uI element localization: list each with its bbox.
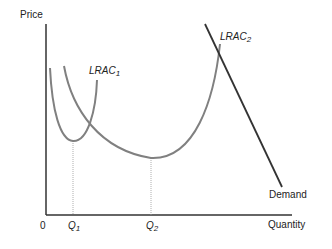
q1-subscript: 1 (76, 224, 80, 233)
lrac1-label: LRAC1 (89, 66, 120, 76)
lrac1-curve (50, 68, 97, 141)
q2-text: Q (146, 220, 154, 231)
q1-text: Q (68, 220, 76, 231)
q1-tick-label: Q1 (68, 221, 80, 231)
q2-tick-label: Q2 (146, 221, 158, 231)
lrac2-curve (64, 44, 220, 158)
lrac2-label-subscript: 2 (247, 35, 251, 44)
q2-subscript: 2 (154, 224, 158, 233)
x-axis-label: Quantity (268, 220, 305, 230)
lrac2-label: LRAC2 (220, 32, 251, 42)
demand-curve (205, 24, 282, 187)
origin-label: 0 (40, 221, 46, 231)
lrac1-label-text: LRAC (89, 65, 116, 76)
diagram-canvas (0, 0, 332, 249)
demand-label: Demand (269, 190, 307, 200)
lrac2-label-text: LRAC (220, 31, 247, 42)
y-axis-label: Price (20, 10, 43, 20)
lrac1-label-subscript: 1 (116, 69, 120, 78)
